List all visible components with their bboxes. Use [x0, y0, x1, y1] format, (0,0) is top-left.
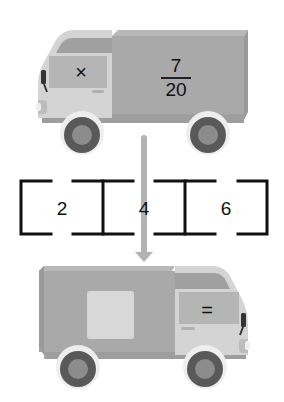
bottom-cab-symbol: = [196, 300, 218, 320]
fraction-numerator: 7 [161, 56, 191, 76]
number-line-value-1: 2 [52, 199, 72, 218]
bottom-cargo-blank-box [87, 291, 134, 339]
top-truck: × 7 20 [0, 0, 284, 155]
top-cab-symbol: × [70, 62, 92, 82]
bottom-truck: = [0, 255, 284, 402]
top-truck-graphic [0, 0, 284, 155]
fraction-denominator: 20 [161, 80, 191, 100]
number-line-value-2: 4 [134, 199, 154, 218]
number-line: 2 4 6 [0, 170, 284, 242]
top-cargo-fraction: 7 20 [161, 56, 191, 100]
bottom-truck-graphic [0, 255, 284, 402]
number-line-value-3: 6 [216, 199, 236, 218]
